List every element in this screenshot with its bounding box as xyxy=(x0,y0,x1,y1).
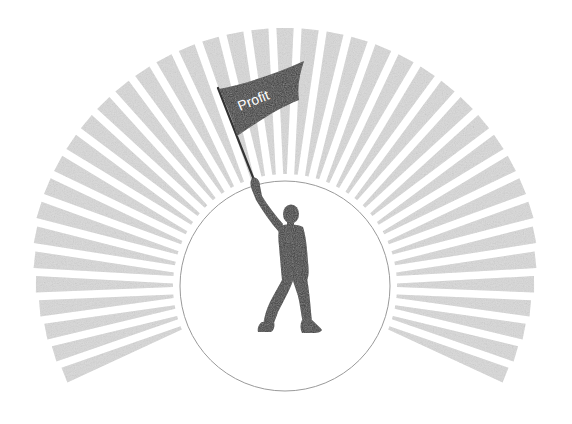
illustration: Profit xyxy=(0,0,572,424)
sunburst-ray xyxy=(396,251,536,276)
sunburst-ray xyxy=(294,29,319,175)
profit-flag-illustration: Profit xyxy=(0,0,572,424)
sunburst-ray xyxy=(34,251,174,276)
sunburst-ray xyxy=(36,276,173,293)
sunburst-ray xyxy=(397,276,534,293)
